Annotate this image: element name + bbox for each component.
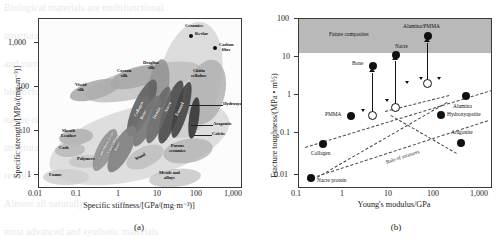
open-marker <box>391 103 400 112</box>
panel-a-ytick-mark <box>34 130 38 131</box>
panel-b-ytick: 10 <box>282 52 290 61</box>
label-viscid-silk: Viscidsilk <box>75 83 86 93</box>
label-cocoon-silk: Cocoonsilk <box>117 69 131 79</box>
label-ceramics: Ceramics <box>185 24 203 29</box>
label-skin: Cork <box>59 146 69 151</box>
label-chitin-cellulose: Chitincellulose <box>191 69 207 79</box>
panel-b-ytick: 0.1 <box>280 128 290 137</box>
panel-a-ytick: 1,000 <box>8 38 26 47</box>
arrow-shaft-alumina-pmma <box>427 43 429 83</box>
panel-b-xtick: 10 <box>384 189 392 198</box>
label-dragline-silk: Draglinesilk <box>143 61 159 71</box>
open-marker <box>368 111 377 120</box>
panel-a: Ceramics Kevlar Carbonfibre Chitincellul… <box>0 0 252 246</box>
label-metals-alloys: Metals andalloys <box>159 171 180 181</box>
point-alumina <box>462 92 470 100</box>
label-sheath-leather: SheathLeather <box>61 129 76 139</box>
label-cork: Polymers <box>77 157 95 162</box>
panel-b-xtick: 0.1 <box>291 189 301 198</box>
panel-b-xtick: 100 <box>427 189 439 198</box>
point-nacre-protein <box>307 174 315 182</box>
panel-a-xtick: 0.01 <box>28 189 42 198</box>
point-aragonite <box>457 139 465 147</box>
triangle-marker <box>405 81 409 84</box>
point-nacre <box>392 51 400 59</box>
panel-b-plot-area: Future composites Rule of mixtures <box>298 18 492 188</box>
panel-b-ytick: 100 <box>277 14 289 23</box>
panel-a-xtick: 1,000 <box>224 189 242 198</box>
label-alumina-pmma: Alumina/PMMA <box>403 23 440 29</box>
leader-calcite <box>194 135 212 136</box>
panel-b-xtick: 1 <box>340 189 344 198</box>
triangle-marker <box>361 109 365 112</box>
label-porous-ceramics: Porousceramics <box>169 144 186 154</box>
label-nacre-protein: Nacre protein <box>317 177 346 183</box>
marker-carbon-fibre <box>213 46 217 50</box>
triangle-marker <box>385 99 389 102</box>
triangle-marker <box>437 77 441 80</box>
open-marker <box>423 79 432 88</box>
label-hydroxyapatite: Hydroxyapatite <box>223 102 242 107</box>
leader-hydroxyapatite <box>189 105 223 106</box>
point-pmma <box>347 112 355 120</box>
point-hydroxyapatite <box>437 111 445 119</box>
label-calcite: Calcite <box>212 132 225 137</box>
label-future-composites: Future composites <box>329 31 369 37</box>
label-pmma: PMMA <box>325 111 341 117</box>
panel-a-caption: (a) <box>119 222 159 232</box>
panel-b-ytick-mark <box>294 56 298 57</box>
point-bone <box>369 62 377 70</box>
figure-root: Biological materials are multifunctional… <box>0 0 504 246</box>
label-aragonite: Aragonite <box>451 129 473 135</box>
panel-b-xtick: 1,000 <box>470 189 488 198</box>
panel-a-ytick-mark <box>34 86 38 87</box>
panel-a-xtick: 0.1 <box>71 189 81 198</box>
panel-a-ytick: 10 <box>22 126 30 135</box>
arrow-shaft-nacre <box>395 61 397 107</box>
point-collagen <box>319 140 327 148</box>
panel-a-ytick-mark <box>34 42 38 43</box>
label-hydroxyapatite: Hydroxyapatite <box>447 111 481 117</box>
label-bone: Bone <box>352 60 363 66</box>
label-aragonite: Aragonite <box>213 122 232 127</box>
panel-b-ytick-mark <box>294 174 298 175</box>
panel-b-xaxis-title: Young's modulus/GPa <box>298 200 490 209</box>
label-collagen: Collagen <box>311 150 330 156</box>
panel-a-plot-area: Ceramics Kevlar Carbonfibre Chitincellul… <box>38 18 242 188</box>
triangle-marker <box>419 77 423 80</box>
panel-b-caption: (b) <box>376 222 416 232</box>
panel-a-ytick-mark <box>34 174 38 175</box>
panel-a-xtick: 10 <box>153 189 161 198</box>
panel-b: Future composites Rule of mixtures <box>252 0 504 246</box>
panel-a-ytick: 1 <box>27 170 31 179</box>
panel-b-yaxis-title: Fracture toughness/(MPa • m½) <box>270 73 279 178</box>
label-alumina: Alumina <box>453 103 472 109</box>
panel-b-ytick: 1 <box>287 90 291 99</box>
panel-b-ytick-mark <box>294 94 298 95</box>
panel-b-ytick-mark <box>294 132 298 133</box>
panel-a-yaxis-title: Specific strength/[MPa/(mg·m⁻³)] <box>12 66 22 178</box>
leader-aragonite <box>191 125 213 126</box>
panel-a-xtick: 1 <box>116 189 120 198</box>
label-nacre: Nacre <box>395 43 408 49</box>
point-alumina-pmma <box>424 32 432 40</box>
panel-a-xaxis-title: Specific stiffness/[GPa/(mg·m⁻³)] <box>38 200 240 210</box>
label-foams: Foams <box>49 173 62 178</box>
marker-kevlar <box>189 34 193 38</box>
label-carbon-fibre: Carbonfibre <box>219 43 233 53</box>
panel-b-ytick-mark <box>294 18 298 19</box>
label-kevlar: Kevlar <box>195 32 208 37</box>
panel-a-xtick: 100 <box>190 189 202 198</box>
arrow-shaft-bone <box>372 73 374 115</box>
